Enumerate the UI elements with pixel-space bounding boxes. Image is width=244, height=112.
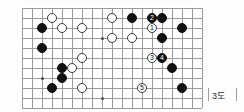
grid-line-horizontal [22,58,202,59]
stone-black[interactable] [37,43,47,53]
move-number: 3 [150,54,154,61]
stone-white[interactable] [67,63,77,73]
move-stone-4[interactable]: 4 [157,53,167,63]
stone-white[interactable] [127,33,137,43]
stone-black[interactable] [177,23,187,33]
stone-black[interactable] [157,13,167,23]
stone-black[interactable] [47,83,57,93]
stone-black[interactable] [157,33,167,43]
stone-white[interactable] [107,33,117,43]
star-point [41,77,44,80]
move-stone-5[interactable]: 5 [137,83,147,93]
star-point [101,97,104,100]
move-stone-2[interactable]: 2 [147,13,157,23]
grid-line-horizontal [22,108,202,109]
move-number: 5 [140,84,144,91]
move-number: 4 [160,54,164,61]
grid-line-horizontal [22,28,202,29]
grid-line-horizontal [22,48,202,49]
grid-line-horizontal [22,8,202,9]
stone-black[interactable] [37,23,47,33]
grid-line-horizontal [22,98,202,99]
diagram-root: 21345 3도 [0,0,244,112]
stone-white[interactable] [77,23,87,33]
stone-white[interactable] [107,13,117,23]
stone-black[interactable] [127,13,137,23]
stone-black[interactable] [57,63,67,73]
stone-black[interactable] [167,63,177,73]
stone-white[interactable] [77,83,87,93]
grid-line-horizontal [22,78,202,79]
caption-rule-right [236,88,237,101]
diagram-caption: 3도 [212,89,225,102]
move-stone-3[interactable]: 3 [147,53,157,63]
stone-white[interactable] [77,53,87,63]
stone-black[interactable] [177,83,187,93]
grid-line-vertical [202,8,203,108]
stone-white[interactable] [57,23,67,33]
move-number: 2 [150,14,154,21]
star-point [101,37,104,40]
caption-rule-left [208,88,209,101]
move-number: 1 [150,24,154,31]
move-stone-1[interactable]: 1 [147,23,157,33]
stone-black[interactable] [57,73,67,83]
stone-white[interactable] [47,13,57,23]
go-board[interactable]: 21345 [17,3,199,106]
